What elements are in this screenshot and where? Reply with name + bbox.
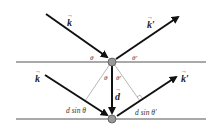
path-difference-left-label: d sin θ — [66, 106, 86, 115]
k-in-bottom-label: k — [35, 73, 40, 84]
k-out-bottom-arrow-accent: → — [181, 68, 187, 74]
k-arrow-accent: → — [67, 12, 73, 18]
k-in-top-label: k — [67, 17, 72, 28]
bragg-diagram: k → k′ → k → k′ → θ θ′ θ θ′ d → d sin θ … — [0, 0, 218, 134]
theta-inner-right-label: θ′ — [116, 74, 121, 82]
k-in-bottom-arrow-accent: → — [35, 68, 41, 74]
path-difference-left-line — [85, 64, 110, 101]
d-vector-label: d — [115, 91, 121, 102]
upper-atom — [108, 58, 116, 66]
path-difference-right-label: d sin θ′ — [135, 108, 157, 117]
lower-atom — [108, 115, 116, 123]
theta-right-label: θ′ — [132, 54, 137, 62]
k-out-bottom-label: k′ — [181, 73, 189, 84]
theta-left-label: θ — [90, 54, 94, 62]
d-arrow-accent: → — [115, 86, 121, 92]
theta-inner-left-label: θ — [104, 74, 108, 82]
k-out-top-label: k′ — [147, 19, 155, 30]
k-out-top-arrow-accent: → — [147, 14, 153, 20]
incident-beam-top — [46, 14, 107, 57]
